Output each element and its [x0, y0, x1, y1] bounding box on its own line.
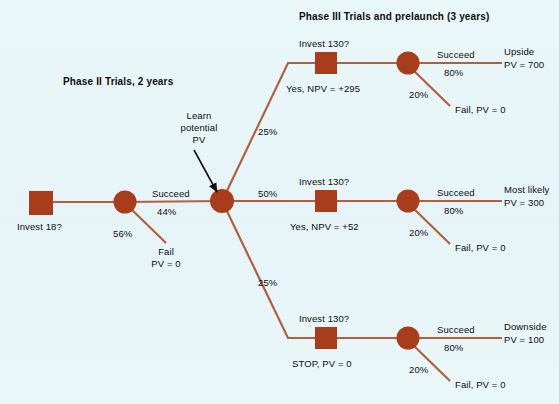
upside-succeed-prob: 80%	[444, 67, 463, 79]
downside-outcome-value: PV = 100	[504, 334, 544, 346]
edge-phase2-succeed	[125, 201, 222, 202]
upside-succeed-label: Succeed	[437, 49, 475, 61]
middle-decision-label: Invest 130?	[299, 176, 349, 188]
middle-decision-result: Yes, NPV = +52	[290, 221, 359, 233]
node-phase3-outcome-upside	[397, 52, 420, 75]
phase2-header: Phase II Trials, 2 years	[63, 76, 173, 88]
phase2-succeed-prob: 44%	[157, 206, 176, 218]
phase2-fail-prob: 56%	[113, 228, 132, 240]
node-phase3-outcome-middle	[397, 190, 420, 213]
node-learn-potential-pv	[210, 189, 234, 213]
branch-prob-upside: 25%	[258, 126, 277, 138]
upside-fail-label: Fail, PV = 0	[455, 104, 506, 116]
upside-decision-result: Yes, NPV = +295	[286, 83, 360, 95]
branch-prob-middle: 50%	[258, 188, 277, 200]
middle-outcome-name: Most likely	[504, 184, 549, 196]
downside-fail-prob: 20%	[409, 364, 428, 376]
middle-succeed-label: Succeed	[437, 187, 475, 199]
branch-lines	[53, 63, 502, 381]
middle-outcome-value: PV = 300	[504, 197, 544, 209]
phase2-fail-label: Fail	[143, 246, 189, 258]
phase3-header: Phase III Trials and prelaunch (3 years)	[299, 11, 490, 23]
middle-fail-prob: 20%	[409, 227, 428, 239]
middle-fail-label: Fail, PV = 0	[455, 242, 506, 254]
node-invest-130-downside	[315, 327, 337, 349]
downside-outcome-name: Downside	[504, 321, 547, 333]
invest-18-label: Invest 18?	[17, 221, 62, 233]
decision-tree-figure: Phase II Trials, 2 years Phase III Trial…	[0, 0, 559, 404]
downside-succeed-prob: 80%	[444, 342, 463, 354]
branch-prob-downside: 25%	[258, 277, 277, 289]
learn-label-line3: PV	[168, 134, 230, 146]
node-invest-130-middle	[315, 190, 337, 212]
upside-outcome-value: PV = 700	[504, 59, 544, 71]
learn-label-line1: Learn	[168, 110, 230, 122]
upside-outcome-name: Upside	[504, 46, 534, 58]
downside-fail-label: Fail, PV = 0	[455, 379, 506, 391]
downside-decision-result: STOP, PV = 0	[292, 358, 352, 370]
middle-succeed-prob: 80%	[444, 205, 463, 217]
node-phase2-outcome	[114, 191, 137, 214]
node-phase3-outcome-downside	[397, 327, 420, 350]
node-invest-18	[29, 191, 53, 215]
learn-label-line2: potential	[168, 122, 230, 134]
downside-succeed-label: Succeed	[437, 324, 475, 336]
phase2-fail-value: PV = 0	[143, 258, 189, 270]
phase2-succeed-label: Succeed	[152, 188, 190, 200]
upside-fail-prob: 20%	[409, 89, 428, 101]
node-invest-130-upside	[315, 52, 337, 74]
tree-canvas	[0, 0, 559, 404]
upside-decision-label: Invest 130?	[299, 38, 349, 50]
learn-potential-pv-arrow	[194, 150, 217, 192]
downside-decision-label: Invest 130?	[299, 313, 349, 325]
